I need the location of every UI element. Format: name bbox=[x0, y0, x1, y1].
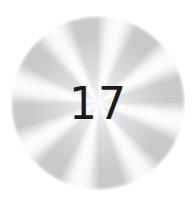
badge-number: 17 bbox=[0, 82, 196, 126]
badge-stage: 17 bbox=[0, 0, 196, 201]
